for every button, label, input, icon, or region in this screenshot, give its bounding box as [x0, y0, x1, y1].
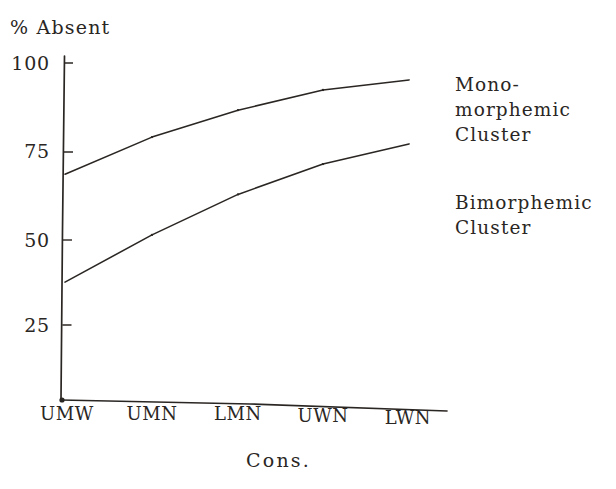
- y-tick-label-25: 25: [2, 314, 50, 336]
- y-tick-label-50: 50: [2, 229, 50, 251]
- legend-bi-line-2: Cluster: [455, 215, 593, 240]
- x-tick-label-uwn: UWN: [288, 405, 358, 426]
- y-tick-label-100: 100: [2, 52, 50, 74]
- legend-entry-monomorphemic: Mono- morphemic Cluster: [455, 72, 571, 147]
- x-tick-label-lwn: LWN: [373, 407, 443, 428]
- legend-bi-line-1: Bimorphemic: [455, 190, 593, 215]
- series-line-monomorphemic: [65, 80, 409, 174]
- x-tick-label-umn: UMN: [117, 403, 187, 424]
- y-axis-title: % Absent: [10, 16, 110, 38]
- x-tick-label-lmn: LMN: [203, 403, 273, 424]
- legend-mono-line-3: Cluster: [455, 122, 571, 147]
- y-tick-label-75: 75: [2, 140, 50, 162]
- legend-entry-bimorphemic: Bimorphemic Cluster: [455, 190, 593, 240]
- x-axis-title: Cons.: [246, 449, 311, 471]
- y-axis-line: [61, 56, 65, 400]
- series-line-bimorphemic: [65, 144, 409, 282]
- origin-marker: [59, 397, 64, 402]
- legend-mono-line-1: Mono-: [455, 72, 571, 97]
- data-point-markers: [151, 89, 324, 236]
- x-tick-label-umw: UMW: [32, 403, 102, 424]
- chart-figure: % Absent 100 75 50 25 UMW UMN LMN UWN LW…: [0, 0, 616, 489]
- legend-mono-line-2: morphemic: [455, 97, 571, 122]
